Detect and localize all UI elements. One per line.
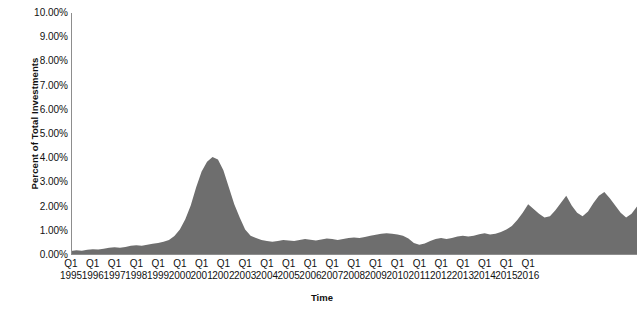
x-axis-tick-labels: Q11995Q11996Q11997Q11998Q11999Q12000Q120… xyxy=(71,258,637,292)
x-tick-label: Q12016 xyxy=(508,258,548,282)
y-tick-label: 9.00% xyxy=(12,32,68,42)
y-tick-label: 1.00% xyxy=(12,226,68,236)
chart-svg xyxy=(71,13,637,255)
x-axis-title: Time xyxy=(0,292,644,303)
y-tick-label: 6.00% xyxy=(12,105,68,115)
area-series xyxy=(71,157,637,255)
x-tick-quarter: Q1 xyxy=(508,258,548,270)
y-tick-label: 4.00% xyxy=(12,153,68,163)
plot-area xyxy=(71,13,637,255)
y-tick-label: 2.00% xyxy=(12,202,68,212)
y-tick-label: 3.00% xyxy=(12,177,68,187)
area-chart: Percent of Total Investments 10.00%9.00%… xyxy=(0,0,644,313)
x-tick-year: 2016 xyxy=(508,270,548,282)
y-tick-label: 7.00% xyxy=(12,81,68,91)
y-tick-label: 5.00% xyxy=(12,129,68,139)
y-tick-label: 10.00% xyxy=(12,8,68,18)
y-tick-label: 8.00% xyxy=(12,56,68,66)
